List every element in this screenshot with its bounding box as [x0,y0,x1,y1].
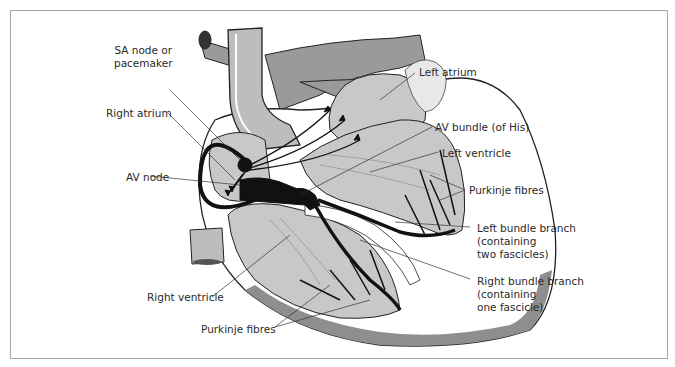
lbb-line3: two fascicles) [477,248,576,261]
label-purkinje-right: Purkinje fibres [469,184,544,197]
label-av-node: AV node [126,171,169,184]
vessel-opening [199,31,211,49]
rbb-line3: one fascicle) [477,301,584,314]
label-sa-node: SA node or pacemaker [114,44,172,70]
label-sa-node-line1: SA node or [114,44,172,57]
lbb-line2: (containing [477,235,576,248]
inferior-vena-cava [190,228,224,264]
label-right-bundle-branch: Right bundle branch (containing one fasc… [477,275,584,314]
label-sa-node-line2: pacemaker [114,57,172,70]
label-left-ventricle: Left ventricle [442,147,511,160]
lbb-line1: Left bundle branch [477,222,576,235]
label-left-atrium: Left atrium [419,66,477,79]
label-av-bundle: AV bundle (of His) [435,121,529,134]
label-left-bundle-branch: Left bundle branch (containing two fasci… [477,222,576,261]
rbb-line1: Right bundle branch [477,275,584,288]
rbb-line2: (containing [477,288,584,301]
label-right-ventricle: Right ventricle [147,291,224,304]
label-purkinje-bottom: Purkinje fibres [201,323,276,336]
sa-node [238,158,252,172]
label-right-atrium: Right atrium [106,107,172,120]
